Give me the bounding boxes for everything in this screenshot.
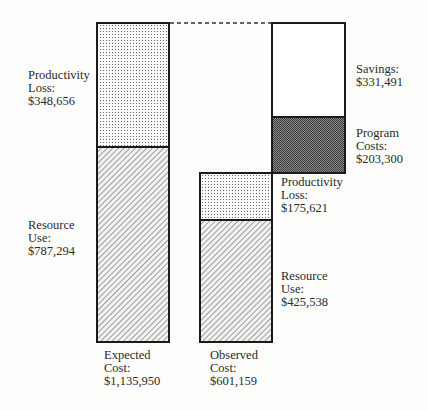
- label-observed-resource-use: Resource Use: $425,538: [281, 270, 328, 309]
- expected-productivity-loss-segment: [97, 23, 169, 147]
- label-savings: Savings: $331,491: [356, 63, 403, 89]
- label-expected-productivity-loss: Productivity Loss: $348,656: [28, 69, 90, 108]
- label-expected-cost: Expected Cost: $1,135,950: [104, 349, 160, 388]
- savings-segment: [272, 23, 345, 117]
- label-observed-cost: Observed Cost: $601,159: [210, 349, 258, 388]
- label-observed-productivity-loss: Productivity Loss: $175,621: [281, 176, 343, 215]
- observed-resource-use-segment: [200, 220, 272, 342]
- label-expected-resource-use: Resource Use: $787,294: [28, 219, 75, 258]
- observed-productivity-loss-segment: [200, 173, 272, 220]
- label-program-costs: Program Costs: $203,300: [356, 127, 403, 166]
- program-costs-segment: [272, 117, 345, 173]
- expected-resource-use-segment: [97, 147, 169, 342]
